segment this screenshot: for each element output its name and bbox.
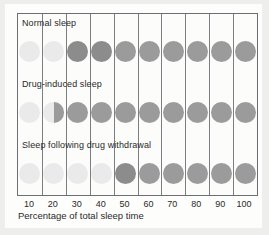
data-point-marker xyxy=(139,41,160,62)
data-point-marker xyxy=(91,102,112,123)
data-point-marker xyxy=(163,163,184,184)
data-point-marker xyxy=(139,102,160,123)
x-axis-tick-label: 40 xyxy=(89,198,113,210)
data-point-marker xyxy=(67,163,88,184)
series-row-sleep-following-drug-withdrawal: Sleep following drug withdrawal xyxy=(18,136,257,197)
page-surface: Normal sleep Drug-induced sleep Sleep fo… xyxy=(5,4,262,228)
data-point-marker xyxy=(235,41,256,62)
data-point-marker xyxy=(115,102,136,123)
series-label-sleep-following-drug-withdrawal: Sleep following drug withdrawal xyxy=(22,140,151,151)
data-point-marker xyxy=(187,163,208,184)
x-axis-tick-label: 70 xyxy=(160,198,184,210)
data-point-marker xyxy=(115,163,136,184)
dot-track-normal-sleep xyxy=(18,33,257,73)
data-point-marker xyxy=(187,102,208,123)
x-axis-tick-label: 30 xyxy=(65,198,89,210)
x-axis-title: Percentage of total sleep time xyxy=(18,210,144,222)
x-axis-tick-label: 20 xyxy=(41,198,65,210)
series-row-normal-sleep: Normal sleep xyxy=(18,14,257,75)
series-row-drug-induced-sleep: Drug-induced sleep xyxy=(18,75,257,136)
data-point-marker xyxy=(211,163,232,184)
data-point-marker xyxy=(19,41,40,62)
data-point-marker xyxy=(187,41,208,62)
x-axis-tick-label: 50 xyxy=(113,198,137,210)
x-axis-tick-label: 80 xyxy=(184,198,208,210)
x-axis-tick-label: 90 xyxy=(208,198,232,210)
data-point-marker xyxy=(211,41,232,62)
series-label-drug-induced-sleep: Drug-induced sleep xyxy=(22,79,102,90)
data-point-marker xyxy=(43,102,64,123)
figure-container: Normal sleep Drug-induced sleep Sleep fo… xyxy=(0,0,269,235)
data-point-marker xyxy=(67,41,88,62)
dot-track-sleep-following-drug-withdrawal xyxy=(18,155,257,195)
data-point-marker xyxy=(19,102,40,123)
data-point-marker xyxy=(163,41,184,62)
plot-area: Normal sleep Drug-induced sleep Sleep fo… xyxy=(17,13,258,196)
data-point-marker xyxy=(163,102,184,123)
data-point-marker xyxy=(43,163,64,184)
data-point-marker xyxy=(115,41,136,62)
marker-half-dark xyxy=(54,102,65,123)
data-point-marker xyxy=(67,102,88,123)
x-axis-tick-label: 100 xyxy=(232,198,256,210)
data-point-marker xyxy=(139,163,160,184)
series-label-normal-sleep: Normal sleep xyxy=(22,18,76,29)
data-point-marker xyxy=(235,102,256,123)
data-point-marker xyxy=(211,102,232,123)
dot-track-drug-induced-sleep xyxy=(18,94,257,134)
data-point-marker xyxy=(19,163,40,184)
data-point-marker xyxy=(43,41,64,62)
x-axis-tick-label: 10 xyxy=(17,198,41,210)
data-point-marker xyxy=(91,41,112,62)
marker-half-light xyxy=(43,102,54,123)
x-axis-tick-label: 60 xyxy=(136,198,160,210)
data-point-marker xyxy=(91,163,112,184)
data-point-marker xyxy=(235,163,256,184)
